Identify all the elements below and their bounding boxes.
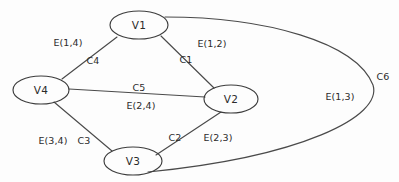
edge-label-e-2-3: E(2,3) [203,132,232,143]
capacity-label-c6: C6 [377,71,390,82]
edge-label-e-3-4: E(3,4) [38,135,67,146]
capacity-label-c3: C3 [78,135,91,146]
capacity-label-c1: C1 [180,54,193,65]
capacity-label-c5: C5 [133,82,146,93]
capacity-label-c4: C4 [87,55,100,66]
edge-label-e-1-3: E(1,3) [325,91,354,102]
graph-diagram-canvas: V1 V2 V3 V4 E(1,4) E(1,2) E(2,4) E(3,4) … [0,0,399,182]
edge-label-e-1-4: E(1,4) [53,37,82,48]
edge-label-e-2-4: E(2,4) [126,100,155,111]
edge-label-e-1-2: E(1,2) [197,38,226,49]
node-label-v3: V3 [126,155,140,167]
node-label-v4: V4 [34,84,48,96]
node-label-v2: V2 [224,93,238,105]
capacity-label-c2: C2 [169,132,182,143]
node-label-v1: V1 [132,19,146,31]
